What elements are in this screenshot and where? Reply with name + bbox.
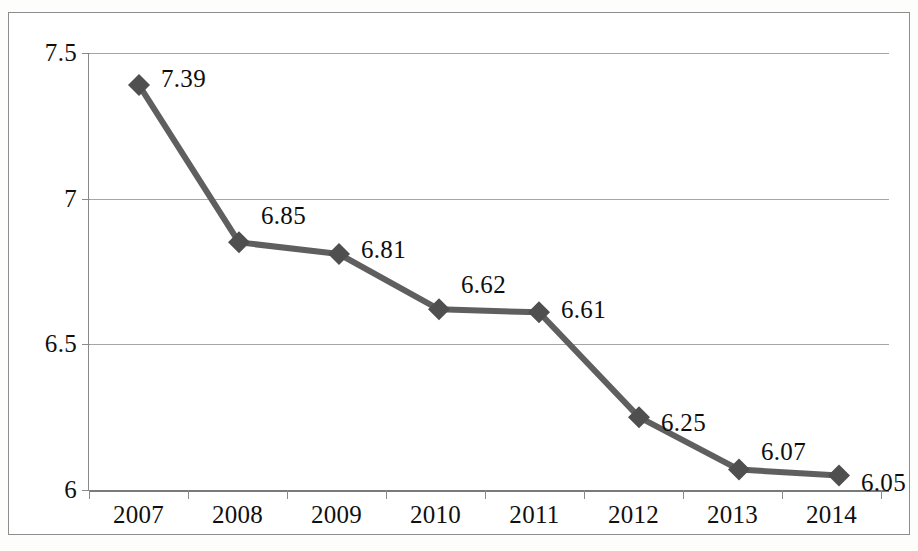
data-point-marker-2014 (828, 464, 850, 486)
x-tick-7 (782, 490, 783, 499)
plot-area: 7.5 7 6.5 6 2007 2008 2009 2010 2011 201… (89, 53, 889, 490)
x-axis-label-2008: 2008 (212, 501, 263, 529)
x-axis-label-2013: 2013 (707, 501, 758, 529)
x-tick-0 (89, 490, 90, 499)
data-label-2013: 6.07 (761, 438, 806, 466)
data-label-2008: 6.85 (261, 202, 306, 230)
y-axis-label-1: 7 (64, 185, 77, 213)
x-axis-label-2009: 2009 (311, 501, 362, 529)
x-tick-6 (683, 490, 684, 499)
x-tick-1 (188, 490, 189, 499)
x-tick-5 (584, 490, 585, 499)
gridline-6-baseline (89, 490, 889, 492)
cut-off-caption (10, 541, 240, 551)
data-label-2009: 6.81 (361, 236, 406, 264)
x-axis-label-2010: 2010 (410, 501, 461, 529)
x-tick-3 (386, 490, 387, 499)
y-axis-label-2: 6.5 (45, 330, 77, 358)
data-label-2012: 6.25 (661, 409, 706, 437)
data-point-marker-2010 (428, 298, 450, 320)
data-label-2010: 6.62 (461, 271, 506, 299)
data-label-2014: 6.05 (861, 469, 906, 497)
data-point-marker-2013 (728, 459, 750, 481)
data-label-2007: 7.39 (161, 65, 206, 93)
data-label-2011: 6.61 (561, 296, 606, 324)
y-axis-label-0: 7.5 (45, 39, 77, 67)
x-tick-2 (287, 490, 288, 499)
x-axis-label-2007: 2007 (113, 501, 164, 529)
x-axis-label-2011: 2011 (509, 501, 559, 529)
y-axis-label-3: 6 (64, 476, 77, 504)
x-axis-label-2014: 2014 (806, 501, 857, 529)
x-tick-4 (485, 490, 486, 499)
x-axis-label-2012: 2012 (608, 501, 659, 529)
data-point-marker-2009 (328, 243, 350, 265)
chart-frame: 7.5 7 6.5 6 2007 2008 2009 2010 2011 201… (8, 12, 910, 535)
